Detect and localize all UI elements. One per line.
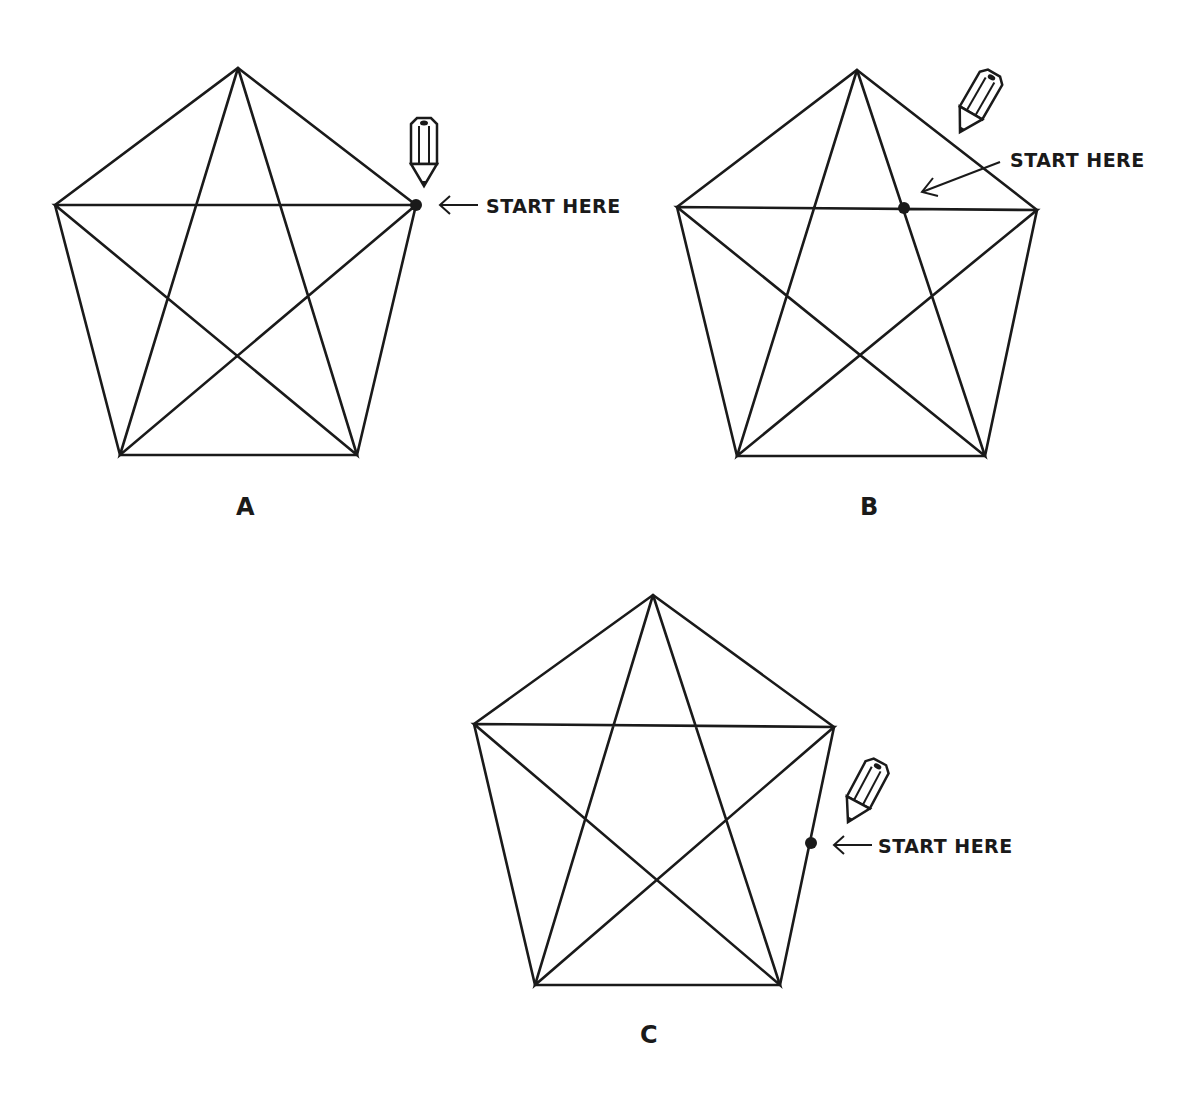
arrow-left-icon (834, 836, 872, 854)
figure-a (55, 68, 416, 455)
start-here-label-c: START HERE (878, 835, 1013, 857)
start-dot-a (410, 199, 422, 211)
figure-label-a: A (236, 493, 255, 521)
arrow-left-icon (440, 196, 478, 214)
pencil-icon (837, 756, 892, 828)
figure-b (677, 70, 1037, 456)
start-dot-b (898, 202, 910, 214)
pencil-icon (949, 67, 1006, 139)
pentagon-outline (55, 68, 416, 455)
star-lines (474, 595, 834, 985)
pentagon-outline (677, 70, 1037, 456)
start-here-label-b: START HERE (1010, 149, 1145, 171)
star-lines (677, 70, 1037, 456)
figure-label-b: B (860, 493, 878, 521)
figure-label-c: C (640, 1021, 658, 1049)
arrow-icon (922, 162, 1000, 196)
pencil-icon (411, 118, 437, 186)
star-lines (55, 68, 416, 455)
pentagon-outline (474, 595, 834, 985)
pentagram-diagram: START HERE A START HERE B START HERE C (0, 0, 1195, 1104)
start-here-label-a: START HERE (486, 195, 621, 217)
figure-c (474, 595, 834, 985)
start-dot-c (805, 837, 817, 849)
